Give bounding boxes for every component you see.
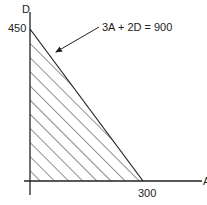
y-axis-label: D	[22, 4, 30, 15]
x-axis-label: A	[203, 176, 207, 187]
y-intercept-label: 450	[8, 23, 26, 34]
equation-label: 3A + 2D = 900	[102, 22, 172, 33]
pointer-arrow	[56, 27, 99, 52]
x-intercept-label: 300	[138, 188, 156, 199]
